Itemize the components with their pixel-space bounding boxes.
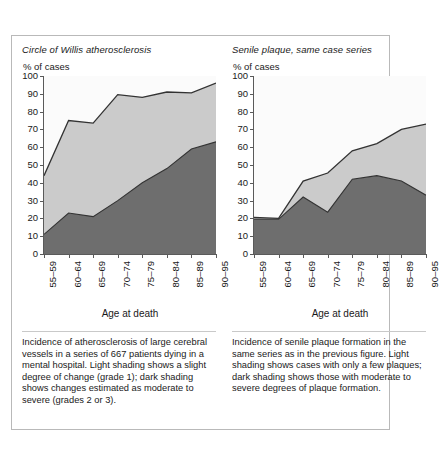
y-tick-90: 90 <box>27 89 44 99</box>
y-tick-80: 80 <box>27 107 44 117</box>
plot-area-left <box>44 76 216 254</box>
y-tick-10: 10 <box>237 231 254 241</box>
y-tick-90: 90 <box>237 89 254 99</box>
panel-title-left: Circle of Willis atherosclerosis <box>22 44 216 56</box>
chart-circle-of-willis: 0102030405060708090100 55–5960–6465–6970… <box>44 76 216 254</box>
y-tick-70: 70 <box>237 124 254 134</box>
y-tick-20: 20 <box>27 213 44 223</box>
panel-row: Circle of Willis atherosclerosis % of ca… <box>12 36 389 429</box>
x-tick-label-55–59: 55–59 <box>48 261 58 287</box>
y-tick-30: 30 <box>27 196 44 206</box>
y-tick-50: 50 <box>27 160 44 170</box>
x-tick-mark-3 <box>328 254 329 258</box>
x-axis-label-right: Age at death <box>254 308 426 319</box>
x-tick-label-75–79: 75–79 <box>356 261 366 287</box>
x-tick-label-85–89: 85–89 <box>405 261 415 287</box>
panel-circle-of-willis: Circle of Willis atherosclerosis % of ca… <box>12 36 222 429</box>
x-tick-mark-7 <box>216 254 217 258</box>
y-tick-100: 100 <box>22 71 44 81</box>
chart-senile-plaque: 0102030405060708090100 55–5960–6465–6970… <box>254 76 426 254</box>
y-tick-30: 30 <box>237 196 254 206</box>
caption-rule-right <box>232 331 426 332</box>
y-tick-100: 100 <box>232 71 254 81</box>
x-tick-label-80–84: 80–84 <box>381 261 391 287</box>
panel-senile-plaque: Senile plaque, same case series % of cas… <box>222 36 432 429</box>
y-tick-80: 80 <box>237 107 254 117</box>
plot-area-right <box>254 76 426 254</box>
x-tick-label-65–69: 65–69 <box>97 261 107 287</box>
y-tick-20: 20 <box>237 213 254 223</box>
x-tick-mark-5 <box>167 254 168 258</box>
figure-container: Circle of Willis atherosclerosis % of ca… <box>11 35 390 430</box>
x-tick-mark-0 <box>44 254 45 258</box>
x-tick-mark-1 <box>69 254 70 258</box>
x-tick-label-70–74: 70–74 <box>332 261 342 287</box>
y-tick-0: 0 <box>33 249 44 259</box>
x-tick-mark-6 <box>191 254 192 258</box>
y-tick-50: 50 <box>237 160 254 170</box>
x-tick-label-70–74: 70–74 <box>122 261 132 287</box>
x-tick-mark-6 <box>401 254 402 258</box>
panel-title-right: Senile plaque, same case series <box>232 44 426 56</box>
x-tick-mark-4 <box>142 254 143 258</box>
caption-left: Incidence of atherosclerosis of large ce… <box>22 337 214 407</box>
y-axis-unit-left: % of cases <box>23 61 216 73</box>
y-tick-10: 10 <box>27 231 44 241</box>
y-tick-60: 60 <box>237 142 254 152</box>
y-tick-60: 60 <box>27 142 44 152</box>
x-tick-mark-0 <box>254 254 255 258</box>
x-tick-label-60–64: 60–64 <box>73 261 83 287</box>
x-tick-label-75–79: 75–79 <box>146 261 156 287</box>
x-axis-label-left: Age at death <box>44 308 216 319</box>
y-tick-0: 0 <box>243 249 254 259</box>
x-tick-mark-4 <box>352 254 353 258</box>
x-tick-mark-1 <box>279 254 280 258</box>
x-tick-label-90–95: 90–95 <box>430 261 440 287</box>
x-tick-label-65–69: 65–69 <box>307 261 317 287</box>
y-tick-40: 40 <box>237 178 254 188</box>
y-axis-unit-right: % of cases <box>233 61 426 73</box>
caption-right: Incidence of senile plaque formation in … <box>232 337 424 395</box>
area-chart-svg-left <box>44 76 216 254</box>
x-tick-mark-2 <box>93 254 94 258</box>
caption-rule-left <box>22 331 216 332</box>
x-tick-mark-3 <box>118 254 119 258</box>
x-tick-mark-7 <box>426 254 427 258</box>
y-tick-70: 70 <box>27 124 44 134</box>
area-chart-svg-right <box>254 76 426 254</box>
x-tick-label-60–64: 60–64 <box>283 261 293 287</box>
x-tick-label-85–89: 85–89 <box>195 261 205 287</box>
x-tick-mark-5 <box>377 254 378 258</box>
y-tick-40: 40 <box>27 178 44 188</box>
x-tick-mark-2 <box>303 254 304 258</box>
x-tick-label-80–84: 80–84 <box>171 261 181 287</box>
x-tick-label-55–59: 55–59 <box>258 261 268 287</box>
